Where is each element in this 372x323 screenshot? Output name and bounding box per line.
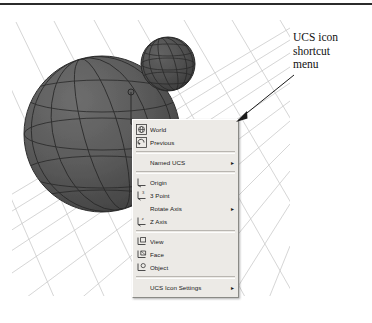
- submenu-arrow-icon: ▸: [228, 160, 234, 166]
- menu-item-label: Object: [150, 261, 234, 274]
- menu-item-z-axis[interactable]: z Z Axis: [133, 215, 238, 228]
- ucs-object-icon: [136, 262, 147, 273]
- menu-item-label: Rotate Axis: [150, 202, 228, 215]
- svg-text:z: z: [142, 216, 144, 221]
- submenu-arrow-icon: ▸: [228, 285, 234, 291]
- menu-item-label: View: [150, 235, 234, 248]
- ucs-world-icon: [136, 124, 147, 135]
- menu-item-label: UCS Icon Settings: [150, 281, 228, 294]
- menu-item-label: 3 Point: [150, 189, 234, 202]
- figure-root: World Previous Named UCS ▸ Origin: [0, 0, 372, 323]
- menu-item-label: Face: [150, 248, 234, 261]
- leader-line: [230, 75, 300, 125]
- menu-item-label: World: [150, 123, 234, 136]
- menu-item-rotate-axis[interactable]: Rotate Axis ▸: [133, 202, 238, 215]
- menu-item-label: Origin: [150, 176, 234, 189]
- menu-item-label: Named UCS: [150, 156, 228, 169]
- ucs-view-icon: [136, 236, 147, 247]
- ucs-zaxis-icon: z: [136, 216, 147, 227]
- ucs-origin-icon: [136, 177, 147, 188]
- menu-item-world[interactable]: World: [133, 123, 238, 136]
- menu-item-label: Z Axis: [150, 215, 234, 228]
- svg-text:3: 3: [142, 190, 145, 195]
- menu-item-previous[interactable]: Previous: [133, 136, 238, 149]
- ucs-face-icon: [136, 249, 147, 260]
- menu-separator: [136, 276, 235, 279]
- menu-item-origin[interactable]: Origin: [133, 176, 238, 189]
- annotation-line-2: shortcut: [293, 45, 371, 59]
- menu-item-view[interactable]: View: [133, 235, 238, 248]
- menu-item-object[interactable]: Object: [133, 261, 238, 274]
- menu-item-3-point[interactable]: 3 3 Point: [133, 189, 238, 202]
- top-horizontal-rule: [0, 3, 372, 5]
- ucs-icon-shortcut-menu[interactable]: World Previous Named UCS ▸ Origin: [132, 119, 239, 298]
- menu-separator: [136, 230, 235, 233]
- menu-item-label: Previous: [150, 136, 234, 149]
- menu-item-named-ucs[interactable]: Named UCS ▸: [133, 156, 238, 169]
- menu-item-face[interactable]: Face: [133, 248, 238, 261]
- menu-separator: [136, 171, 235, 174]
- submenu-arrow-icon: ▸: [228, 206, 234, 212]
- annotation-line-1: UCS icon: [293, 31, 371, 45]
- annotation-callout: UCS icon shortcut menu: [293, 31, 371, 72]
- ucs-previous-icon: [136, 137, 147, 148]
- menu-separator: [136, 151, 235, 154]
- menu-item-ucs-icon-settings[interactable]: UCS Icon Settings ▸: [133, 281, 238, 294]
- annotation-line-3: menu: [293, 58, 371, 72]
- ucs-3point-icon: 3: [136, 190, 147, 201]
